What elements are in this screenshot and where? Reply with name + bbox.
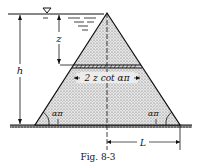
width-label: 2 z cot απ	[83, 73, 130, 83]
L-label: L	[139, 138, 146, 148]
figure-caption: Fig. 8-3	[80, 152, 115, 162]
water-surface-icon	[43, 8, 51, 13]
left-angle-label: απ	[52, 109, 63, 118]
water-ripples	[43, 18, 96, 30]
right-angle-label: απ	[148, 109, 159, 118]
dam-diagram: 2 z cot απ z h απ απ L Fig. 8-3	[0, 0, 197, 163]
z-label: z	[55, 33, 62, 44]
h-label: h	[17, 65, 23, 76]
